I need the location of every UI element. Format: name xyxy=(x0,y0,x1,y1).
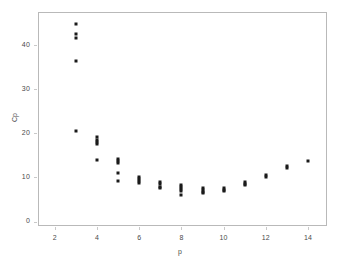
y-tick-mark xyxy=(34,133,37,134)
x-tick-label: 2 xyxy=(43,234,67,241)
x-tick-mark xyxy=(266,227,267,230)
y-tick-mark xyxy=(34,89,37,90)
data-point xyxy=(96,159,99,162)
data-point xyxy=(117,179,120,182)
x-tick-mark xyxy=(139,227,140,230)
data-point xyxy=(96,142,99,145)
x-tick-mark xyxy=(224,227,225,230)
x-tick-label: 6 xyxy=(127,234,151,241)
data-point xyxy=(285,167,288,170)
x-tick-label: 10 xyxy=(212,234,236,241)
x-axis-title: p xyxy=(172,248,188,255)
data-point xyxy=(74,32,77,35)
data-point xyxy=(117,171,120,174)
data-point xyxy=(264,176,267,179)
y-tick-label: 30 xyxy=(4,85,30,92)
data-point xyxy=(159,187,162,190)
cp-scatter-figure: Cp p 010203040 2468101214 xyxy=(0,0,340,265)
y-tick-mark xyxy=(34,45,37,46)
y-tick-mark xyxy=(34,222,37,223)
y-tick-label: 20 xyxy=(4,129,30,136)
data-point xyxy=(117,161,120,164)
x-tick-label: 4 xyxy=(85,234,109,241)
y-axis-title: Cp xyxy=(11,108,18,128)
data-point xyxy=(138,182,141,185)
x-tick-mark xyxy=(308,227,309,230)
data-points-layer xyxy=(0,0,340,265)
data-point xyxy=(222,190,225,193)
x-tick-label: 14 xyxy=(296,234,320,241)
data-point xyxy=(74,22,77,25)
data-point xyxy=(180,193,183,196)
data-point xyxy=(74,59,77,62)
x-tick-label: 12 xyxy=(254,234,278,241)
x-tick-label: 8 xyxy=(169,234,193,241)
y-tick-mark xyxy=(34,177,37,178)
y-tick-label: 10 xyxy=(4,173,30,180)
data-point xyxy=(243,184,246,187)
data-point xyxy=(307,159,310,162)
data-point xyxy=(201,192,204,195)
data-point xyxy=(74,130,77,133)
data-point xyxy=(74,37,77,40)
y-tick-label: 0 xyxy=(4,217,30,224)
x-tick-mark xyxy=(97,227,98,230)
x-tick-mark xyxy=(55,227,56,230)
x-tick-mark xyxy=(181,227,182,230)
y-tick-label: 40 xyxy=(4,41,30,48)
